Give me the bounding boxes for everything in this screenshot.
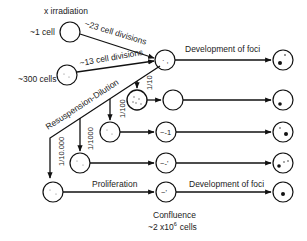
mid-marks: ~-1 xyxy=(160,128,171,137)
focus-dot xyxy=(278,102,282,106)
confluence-cells: ~2 x106cells xyxy=(148,221,197,232)
result-circle-1-100 xyxy=(273,122,293,142)
result-circle-top xyxy=(273,50,293,70)
focus-dot xyxy=(287,160,288,161)
dilution-circle-1-10 xyxy=(127,90,147,110)
dilution-1-1000: 1/1000 xyxy=(86,127,95,150)
hub-marks: · , xyxy=(162,56,169,65)
focus-dot xyxy=(279,127,280,128)
speck xyxy=(140,103,142,105)
speck xyxy=(49,189,50,190)
dilution-circle-1-10000 xyxy=(43,182,63,202)
title-x-irradiation: x irradiation xyxy=(44,6,88,16)
speck xyxy=(68,76,69,77)
focus-dot xyxy=(284,54,286,56)
speck xyxy=(111,133,112,134)
speck xyxy=(76,160,77,161)
bottom-foci-label: Development of foci xyxy=(189,179,264,189)
transformation-assay-diagram: x irradiation ~1 cell ~23 cell divisions… xyxy=(0,0,307,241)
dilution-1-100: 1/100 xyxy=(118,99,127,118)
focus-dot xyxy=(278,61,282,65)
speck xyxy=(106,129,107,130)
dilution-1-10000: 1/10.000 xyxy=(57,137,66,166)
focus-dot xyxy=(277,164,281,168)
result-circle-1-1000 xyxy=(273,153,293,173)
focus-dot xyxy=(284,132,288,136)
speck xyxy=(63,73,64,74)
source-2-label: ~300 cells xyxy=(18,74,57,84)
speck xyxy=(138,98,140,100)
proliferation-label: Proliferation xyxy=(92,179,138,189)
mid-marks: ~' xyxy=(161,188,167,197)
speck xyxy=(132,101,134,103)
speck xyxy=(133,96,135,98)
source-2-circle xyxy=(57,65,77,85)
dilution-1-10: 1/10 xyxy=(145,75,154,90)
source-1-label: ~1 cell xyxy=(30,27,55,37)
confluence-label: Confluence xyxy=(153,210,196,220)
path-label-23-divisions: ~23 cell divisions xyxy=(83,18,148,46)
focus-dot xyxy=(281,192,285,196)
dilution-circle-1-100 xyxy=(100,122,120,142)
source-1-circle xyxy=(60,22,80,42)
dilution-circle-1-1000 xyxy=(70,153,90,173)
row-1-10-mid-circle xyxy=(163,90,183,110)
speck xyxy=(135,102,137,104)
path-label-13-divisions: ~13 cell divisions xyxy=(79,47,144,68)
speck xyxy=(82,164,83,165)
focus-dot xyxy=(283,161,284,162)
mid-marks: ~-' xyxy=(160,159,169,168)
speck xyxy=(55,193,56,194)
result-circle-1-10 xyxy=(273,90,293,110)
top-path-label: Development of foci xyxy=(185,44,260,54)
